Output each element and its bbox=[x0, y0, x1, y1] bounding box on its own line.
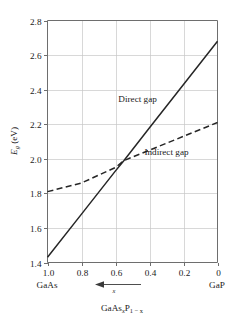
x-axis-title-part-a: GaAs bbox=[101, 303, 122, 313]
x-direction-symbol: x bbox=[112, 287, 116, 294]
x-tick-label: 0.4 bbox=[145, 268, 157, 278]
y-tick-label: 1.6 bbox=[30, 224, 42, 234]
y-axis-tick-labels: 1.41.61.82.02.22.42.62.8 bbox=[30, 17, 42, 269]
x-axis-ticks bbox=[49, 263, 219, 267]
annotation-direct-gap: Direct gap bbox=[118, 94, 157, 104]
right-endpoint-label-gap: GaP bbox=[209, 280, 225, 290]
series-indirect-gap bbox=[48, 122, 218, 191]
plot-frame bbox=[48, 21, 218, 263]
x-tick-label: 0.8 bbox=[77, 268, 89, 278]
x-tick-label: 0 bbox=[216, 268, 221, 278]
data-series-group bbox=[48, 41, 218, 257]
y-tick-label: 2.6 bbox=[30, 51, 42, 61]
chart-figure: 1.41.61.82.02.22.42.62.8 1.00.80.60.40.2… bbox=[0, 0, 240, 328]
y-tick-label: 2.8 bbox=[30, 17, 42, 27]
y-tick-label: 2.4 bbox=[30, 86, 42, 96]
x-axis-title-sub-b: 1 − x bbox=[130, 307, 144, 314]
x-tick-label: 1.0 bbox=[43, 268, 55, 278]
left-endpoint-label-gaas: GaAs bbox=[37, 280, 58, 290]
y-tick-label: 1.4 bbox=[30, 259, 42, 269]
x-direction-arrow: x bbox=[95, 281, 141, 294]
y-axis-ticks bbox=[44, 22, 48, 264]
y-tick-label: 1.8 bbox=[30, 189, 42, 199]
y-axis-title: Eg (eV) bbox=[9, 127, 20, 156]
x-tick-label: 0.6 bbox=[111, 268, 123, 278]
y-tick-label: 2.0 bbox=[30, 155, 42, 165]
series-annotations: Direct gap Indirect gap bbox=[118, 94, 189, 158]
y-tick-label: 2.2 bbox=[30, 120, 42, 130]
svg-text:Eg (eV): Eg (eV) bbox=[9, 127, 20, 156]
annotation-indirect-gap: Indirect gap bbox=[144, 147, 189, 157]
series-direct-gap bbox=[48, 41, 218, 257]
x-tick-label: 0.2 bbox=[179, 268, 191, 278]
x-axis-title: GaAsxP1 − x bbox=[101, 303, 144, 314]
arrow-head-left-icon bbox=[95, 281, 104, 287]
band-gap-chart-svg: 1.41.61.82.02.22.42.62.8 1.00.80.60.40.2… bbox=[0, 0, 240, 328]
x-axis-tick-labels: 1.00.80.60.40.20 bbox=[43, 268, 221, 278]
y-axis-title-unit: (eV) bbox=[9, 127, 19, 146]
horizontal-gridlines bbox=[48, 56, 218, 229]
